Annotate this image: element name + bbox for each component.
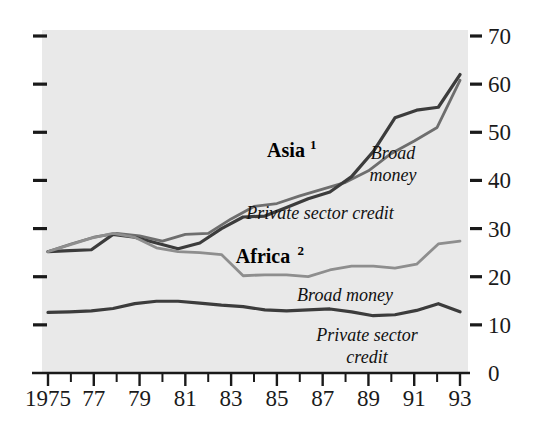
y-axis-label: 20 bbox=[488, 265, 511, 290]
annotation-asia-private-credit: Private sector credit bbox=[245, 203, 394, 223]
y-axis-label: 60 bbox=[488, 72, 511, 97]
annotation-superscript: 2 bbox=[298, 243, 305, 258]
y-axis-label: 0 bbox=[488, 361, 500, 386]
annotation-text: Africa bbox=[236, 245, 290, 267]
chart-figure: 0102030405060701975777981838587899193 As… bbox=[0, 0, 553, 422]
x-axis-label: 85 bbox=[265, 386, 288, 411]
annotation-africa-broad-money: Broad money bbox=[297, 285, 393, 305]
line-chart: 0102030405060701975777981838587899193 As… bbox=[0, 0, 553, 422]
x-axis-label: 79 bbox=[128, 386, 151, 411]
annotation-text: Asia bbox=[267, 139, 305, 161]
annotation-text: Broad bbox=[371, 143, 416, 163]
annotation-text-line2: credit bbox=[346, 347, 388, 367]
plot-background bbox=[42, 30, 468, 373]
annotation-text: Private sector bbox=[315, 325, 418, 345]
annotation-text-line2: money bbox=[370, 165, 417, 185]
x-axis-label: 89 bbox=[357, 386, 380, 411]
x-axis-label: 81 bbox=[174, 386, 197, 411]
y-axis-label: 40 bbox=[488, 168, 511, 193]
y-axis-label: 70 bbox=[488, 24, 511, 49]
x-axis-label: 93 bbox=[449, 386, 472, 411]
y-axis-label: 30 bbox=[488, 217, 511, 242]
x-axis-label: 77 bbox=[82, 386, 105, 411]
annotation-text: Private sector credit bbox=[245, 203, 394, 223]
y-axis-label: 10 bbox=[488, 313, 511, 338]
annotation-superscript: 1 bbox=[310, 137, 317, 152]
x-axis-label: 91 bbox=[403, 386, 426, 411]
x-axis-label: 87 bbox=[311, 386, 334, 411]
x-axis-label: 1975 bbox=[25, 386, 71, 411]
y-axis-label: 50 bbox=[488, 120, 511, 145]
x-axis-label: 83 bbox=[220, 386, 243, 411]
annotation-text: Broad money bbox=[297, 285, 393, 305]
